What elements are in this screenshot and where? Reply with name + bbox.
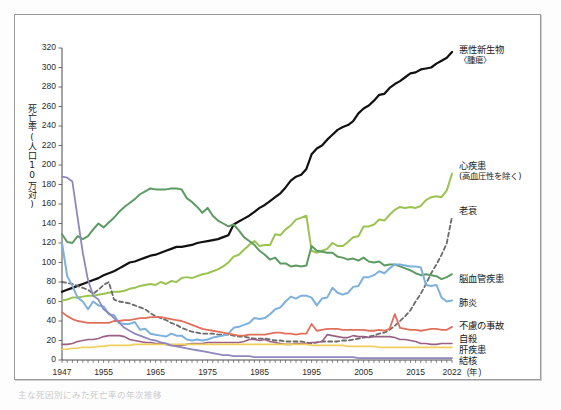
series-label-2: 老衰 [459,205,477,216]
series-label-text: 結核 [459,355,477,366]
y-tick-label: 80 [47,276,57,286]
x-tick-label: 2005 [354,367,373,377]
series-label-text: 自殺 [459,333,477,344]
y-tick-label: 0 [51,354,56,364]
x-axis-unit: (年) [467,367,482,377]
series-label-8: 結核 [459,355,477,366]
series-line-1 [62,174,452,301]
series-sublabel-text: 〈腫瘍〉 [459,55,504,65]
y-tick-label: 300 [42,62,56,72]
x-tick-labels: 194719551965197519851995200520152022(年) [53,367,482,377]
y-tick-label: 260 [42,101,56,111]
series-label-1: 心疾患(高血圧性を除く) [459,160,522,182]
series-label-7: 肝疾患 [459,344,486,355]
series-line-7 [62,344,452,349]
series-label-text: 不慮の事故 [459,320,504,331]
series-label-5: 不慮の事故 [459,320,504,331]
series-label-6: 自殺 [459,333,477,344]
y-tick-label: 180 [42,179,56,189]
series-label-text: 悪性新生物 [459,44,504,55]
x-tick-label: 2015 [406,367,425,377]
series-label-text: 老衰 [459,205,477,216]
y-tick-label: 280 [42,81,56,91]
series-label-4: 肺炎 [459,297,477,308]
y-tick-labels: 0204060801001201401601802002202402602803… [42,42,56,364]
x-tick-label: 2022 [443,367,462,377]
series-label-text: 脳血管疾患 [459,273,504,284]
series-label-0: 悪性新生物〈腫瘍〉 [459,44,504,66]
x-tick-label: 1975 [198,367,217,377]
figure-caption: 主な死因別にみた死亡率の年次推移 [18,388,162,400]
y-tick-label: 160 [42,198,56,208]
x-tick-label: 1985 [250,367,269,377]
y-tick-label: 240 [42,120,56,130]
y-axis-ticks [59,48,63,360]
y-tick-label: 320 [42,42,56,52]
chart-screenshot: 死亡率(人口10万対) 0204060801001201401601802002… [0,0,561,410]
series-label-text: 肝疾患 [459,344,486,355]
y-tick-label: 60 [47,296,57,306]
y-tick-label: 140 [42,218,56,228]
x-tick-label: 1947 [53,367,72,377]
series-lines [62,52,452,358]
y-tick-label: 40 [47,315,57,325]
y-tick-label: 20 [47,335,57,345]
series-label-3: 脳血管疾患 [459,273,504,284]
y-tick-label: 220 [42,140,56,150]
y-tick-label: 120 [42,237,56,247]
x-tick-label: 1995 [302,367,321,377]
series-label-text: 心疾患 [459,160,486,171]
x-tick-label: 1965 [146,367,165,377]
y-tick-label: 200 [42,159,56,169]
series-label-text: 肺炎 [459,297,477,308]
y-tick-label: 100 [42,257,56,267]
series-line-0 [62,52,452,292]
series-sublabel-text: (高血圧性を除く) [459,171,522,181]
x-tick-label: 1955 [94,367,113,377]
